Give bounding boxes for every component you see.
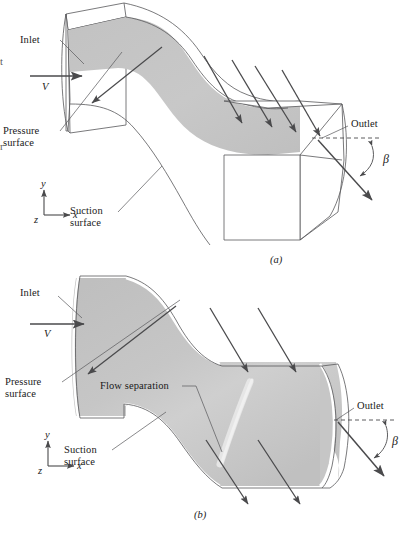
label-velocity-a: V <box>42 81 49 93</box>
caption-panel-a: (a) <box>270 254 282 265</box>
beta-arc-a <box>360 146 374 176</box>
flow-passage-a <box>68 17 300 155</box>
axis-label-y-b: y <box>45 429 50 441</box>
label-inlet-a: Inlet <box>20 34 40 46</box>
pressure-surface-line1-a: Pressure <box>3 125 39 136</box>
beta-arc-b <box>374 426 388 458</box>
suction-surface-leader-a <box>118 166 162 212</box>
axes-triad-a <box>44 190 70 215</box>
panel-b-diagram: Inlet V Pressuresurface Flow separation … <box>0 264 412 534</box>
label-outlet-a: Outlet <box>351 118 378 130</box>
label-pressure-surface-b: Pressuresurface <box>5 376 41 399</box>
pressure-surface-line1-b: Pressure <box>5 376 41 387</box>
panel-a-diagram: Inlet V Pressuresurface Suctionsurface O… <box>0 0 412 270</box>
pressure-surface-line2-b: surface <box>5 388 36 399</box>
label-inlet-b: Inlet <box>20 287 40 299</box>
outlet-velocity-arrow-b <box>338 422 384 476</box>
pressure-surface-line2-a: surface <box>3 137 34 148</box>
suction-surface-line1-b: Suction <box>64 444 97 455</box>
label-pressure-surface-a: Pressuresurface <box>3 125 39 148</box>
figure-page: Inlet V Pressuresurface Suctionsurface O… <box>0 0 412 534</box>
label-beta-b: β <box>392 436 398 448</box>
label-velocity-b: V <box>44 328 51 340</box>
axis-label-x-b: x <box>77 460 82 472</box>
axis-label-z-b: z <box>38 465 42 477</box>
caption-panel-b: (b) <box>194 509 206 520</box>
label-outlet-b: Outlet <box>357 400 384 412</box>
clipped-glyph-lower: r <box>0 141 4 152</box>
axis-label-y-a: y <box>41 178 46 190</box>
label-beta-a: β <box>383 154 389 166</box>
axis-label-z-a: z <box>34 214 38 226</box>
axis-label-x-a: x <box>73 209 78 221</box>
clipped-glyph-upper: t <box>0 56 3 67</box>
label-flow-separation-b: Flow separation <box>100 380 169 392</box>
